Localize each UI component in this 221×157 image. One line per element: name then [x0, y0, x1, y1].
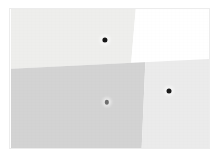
marker-3	[167, 89, 172, 94]
quadrant-image	[11, 9, 209, 148]
screenshot-canvas	[0, 0, 221, 157]
